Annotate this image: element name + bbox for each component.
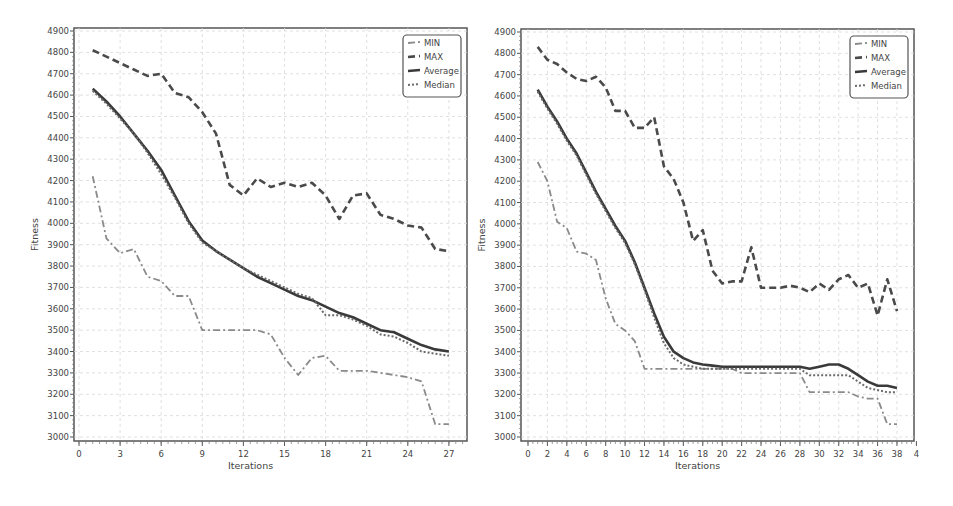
y-tick-label: 3100 bbox=[494, 411, 516, 421]
x-axis: 024681012141618202224262830323436384 bbox=[525, 441, 919, 459]
legend: MINMAXAverageMedian bbox=[850, 36, 908, 98]
y-axis: 3000310032003300340035003600370038003900… bbox=[494, 27, 521, 442]
x-tick-label: 30 bbox=[814, 449, 825, 459]
x-tick-label: 4 bbox=[914, 449, 919, 459]
x-axis-label: Iterations bbox=[228, 460, 273, 471]
x-tick-label: 36 bbox=[872, 449, 883, 459]
x-tick-label: 26 bbox=[775, 449, 786, 459]
x-tick-label: 27 bbox=[443, 449, 454, 459]
legend-item-min: MIN bbox=[424, 38, 440, 48]
y-tick-label: 4700 bbox=[47, 69, 69, 79]
y-tick-label: 3500 bbox=[47, 325, 69, 335]
y-tick-label: 4600 bbox=[47, 90, 69, 100]
x-tick-label: 22 bbox=[736, 449, 747, 459]
y-tick-label: 4700 bbox=[494, 70, 516, 80]
x-tick-label: 12 bbox=[639, 449, 650, 459]
y-tick-label: 3300 bbox=[47, 368, 69, 378]
x-tick-label: 18 bbox=[697, 449, 708, 459]
x-tick-label: 18 bbox=[320, 449, 331, 459]
y-tick-label: 3200 bbox=[47, 389, 69, 399]
y-tick-label: 4400 bbox=[494, 134, 516, 144]
y-tick-label: 4300 bbox=[494, 155, 516, 165]
y-axis-label: Fitness bbox=[29, 218, 40, 251]
y-tick-label: 3100 bbox=[47, 411, 69, 421]
y-tick-label: 4100 bbox=[47, 197, 69, 207]
x-tick-label: 4 bbox=[564, 449, 569, 459]
legend-item-max: MAX bbox=[424, 52, 443, 62]
legend-item-median: Median bbox=[871, 81, 902, 91]
legend-item-average: Average bbox=[424, 66, 459, 76]
y-tick-label: 3700 bbox=[494, 283, 516, 293]
y-tick-label: 4100 bbox=[494, 198, 516, 208]
right-fitness-chart: 3000310032003300340035003600370038003900… bbox=[476, 0, 953, 506]
x-tick-label: 6 bbox=[584, 449, 589, 459]
legend: MINMAXAverageMedian bbox=[403, 35, 461, 97]
legend-item-median: Median bbox=[424, 80, 455, 90]
x-tick-label: 16 bbox=[678, 449, 689, 459]
x-tick-label: 3 bbox=[117, 449, 122, 459]
y-tick-label: 4000 bbox=[47, 218, 69, 228]
y-tick-label: 4000 bbox=[494, 219, 516, 229]
x-tick-label: 24 bbox=[402, 449, 413, 459]
y-tick-label: 3700 bbox=[47, 282, 69, 292]
left-fitness-chart: 3000310032003300340035003600370038003900… bbox=[0, 0, 476, 506]
right-chart-svg: 3000310032003300340035003600370038003900… bbox=[476, 0, 953, 506]
y-tick-label: 4800 bbox=[494, 48, 516, 58]
x-tick-label: 21 bbox=[361, 449, 372, 459]
x-axis: 0369121518212427 bbox=[76, 441, 462, 459]
y-tick-label: 4200 bbox=[494, 176, 516, 186]
x-tick-label: 0 bbox=[525, 449, 530, 459]
x-tick-label: 6 bbox=[158, 449, 163, 459]
y-tick-label: 4200 bbox=[47, 176, 69, 186]
x-tick-label: 32 bbox=[833, 449, 844, 459]
y-tick-label: 3500 bbox=[494, 325, 516, 335]
x-tick-label: 20 bbox=[717, 449, 728, 459]
x-axis-label: Iterations bbox=[675, 460, 720, 471]
x-tick-label: 34 bbox=[853, 449, 864, 459]
y-tick-label: 3400 bbox=[494, 347, 516, 357]
x-tick-label: 28 bbox=[794, 449, 805, 459]
y-tick-label: 3900 bbox=[47, 240, 69, 250]
left-chart-svg: 3000310032003300340035003600370038003900… bbox=[0, 0, 476, 506]
x-tick-label: 38 bbox=[892, 449, 903, 459]
y-tick-label: 4600 bbox=[494, 91, 516, 101]
y-tick-label: 4900 bbox=[494, 27, 516, 37]
y-tick-label: 3300 bbox=[494, 368, 516, 378]
x-tick-label: 8 bbox=[603, 449, 608, 459]
y-tick-label: 4800 bbox=[47, 47, 69, 57]
x-tick-label: 15 bbox=[279, 449, 290, 459]
y-axis: 3000310032003300340035003600370038003900… bbox=[47, 26, 74, 442]
x-tick-label: 0 bbox=[76, 449, 81, 459]
y-tick-label: 4500 bbox=[494, 112, 516, 122]
x-tick-label: 12 bbox=[238, 449, 249, 459]
y-tick-label: 4400 bbox=[47, 133, 69, 143]
legend-item-max: MAX bbox=[871, 53, 890, 63]
y-tick-label: 3900 bbox=[494, 240, 516, 250]
x-tick-label: 2 bbox=[545, 449, 550, 459]
y-tick-label: 3200 bbox=[494, 389, 516, 399]
y-tick-label: 4300 bbox=[47, 154, 69, 164]
legend-item-min: MIN bbox=[871, 39, 887, 49]
y-tick-label: 3600 bbox=[494, 304, 516, 314]
y-tick-label: 3000 bbox=[47, 432, 69, 442]
x-tick-label: 9 bbox=[200, 449, 205, 459]
y-tick-label: 3600 bbox=[47, 304, 69, 314]
y-tick-label: 4500 bbox=[47, 111, 69, 121]
y-tick-label: 3800 bbox=[47, 261, 69, 271]
x-tick-label: 24 bbox=[756, 449, 767, 459]
y-tick-label: 3400 bbox=[47, 347, 69, 357]
y-tick-label: 3800 bbox=[494, 261, 516, 271]
x-tick-label: 14 bbox=[659, 449, 670, 459]
y-axis-label: Fitness bbox=[476, 219, 487, 252]
legend-item-average: Average bbox=[871, 67, 906, 77]
y-tick-label: 3000 bbox=[494, 432, 516, 442]
x-tick-label: 10 bbox=[620, 449, 631, 459]
y-tick-label: 4900 bbox=[47, 26, 69, 36]
